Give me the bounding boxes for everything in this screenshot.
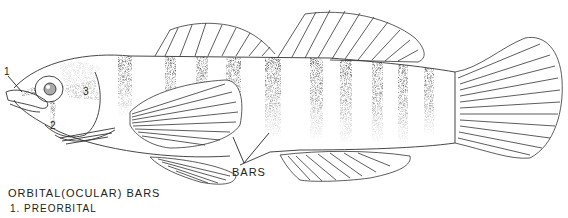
anal-fin bbox=[280, 151, 410, 181]
label-bars: BARS bbox=[232, 166, 266, 178]
label-suborbital-number: 2 bbox=[50, 120, 56, 131]
eye bbox=[35, 76, 63, 102]
fish-illustration bbox=[0, 0, 568, 218]
caption-title: ORBITAL(OCULAR) BARS bbox=[8, 187, 160, 199]
pelvic-fin bbox=[150, 157, 236, 184]
label-preorbital-number: 1 bbox=[4, 66, 10, 77]
caption-item-preorbital: 1. PREORBITAL bbox=[10, 203, 97, 214]
first-dorsal-fin bbox=[155, 23, 275, 56]
label-postorbital-number: 3 bbox=[83, 86, 89, 97]
second-dorsal-fin bbox=[278, 10, 424, 62]
caudal-fin bbox=[455, 37, 562, 158]
pectoral-fin bbox=[130, 80, 242, 148]
